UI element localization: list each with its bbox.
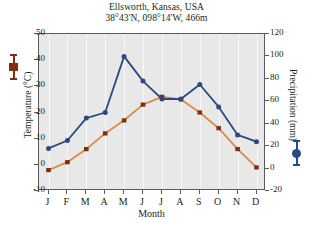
data-point: [122, 118, 127, 122]
x-tick-mark: [256, 190, 257, 194]
x-tick-label: N: [229, 196, 245, 207]
y2-tick-mark: [265, 55, 269, 56]
y-tick-label: 0: [15, 159, 45, 168]
y-tick-label: 30: [15, 80, 45, 89]
x-tick-mark: [161, 190, 162, 194]
data-point: [141, 79, 146, 84]
data-point: [141, 103, 146, 107]
data-point: [178, 97, 183, 102]
data-point: [160, 97, 165, 102]
series-layer: [39, 34, 264, 189]
data-point: [65, 138, 70, 143]
data-point: [198, 110, 203, 114]
data-point: [235, 147, 240, 151]
y2-tick-label: 80: [270, 73, 300, 82]
data-point: [216, 104, 221, 109]
y2-tick-label: 100: [270, 50, 300, 59]
data-point: [46, 146, 51, 151]
x-tick-mark: [66, 190, 67, 194]
x-tick-label: A: [172, 196, 188, 207]
x-tick-label: J: [134, 196, 150, 207]
data-point: [197, 82, 202, 87]
x-tick-label: O: [210, 196, 226, 207]
x-tick-label: S: [191, 196, 207, 207]
y2-tick-label: 120: [270, 28, 300, 37]
y-tick-label: 50: [15, 28, 45, 37]
plot-inner: [39, 34, 264, 189]
y2-tick-mark: [265, 78, 269, 79]
data-point: [84, 147, 89, 151]
x-tick-label: J: [153, 196, 169, 207]
x-tick-mark: [218, 190, 219, 194]
x-tick-mark: [180, 190, 181, 194]
y2-tick-mark: [265, 168, 269, 169]
chart-title-block: Ellsworth, Kansas, USA 38°43'N, 098°14'W…: [0, 2, 313, 24]
climate-chart-figure: Ellsworth, Kansas, USA 38°43'N, 098°14'W…: [0, 0, 313, 226]
data-point: [216, 126, 221, 130]
data-point: [103, 131, 108, 135]
x-tick-mark: [142, 190, 143, 194]
y2-tick-label: 60: [270, 95, 300, 104]
chart-subtitle: 38°43'N, 098°14'W, 466m: [0, 13, 313, 24]
y-tick-label: 40: [15, 54, 45, 63]
data-point: [103, 110, 108, 115]
y2-tick-mark: [265, 190, 269, 191]
y-tick-label: 20: [15, 107, 45, 116]
data-point: [254, 165, 259, 169]
y2-tick-label: 40: [270, 118, 300, 127]
series-line-temperature: [49, 97, 257, 170]
x-tick-label: F: [58, 196, 74, 207]
plot-area: [38, 33, 265, 190]
x-tick-label: A: [96, 196, 112, 207]
y2-tick-label: 0: [270, 163, 300, 172]
y-tick-label: 10: [15, 133, 45, 142]
data-point: [84, 116, 89, 121]
y-tick-label: -10: [15, 185, 45, 194]
x-tick-label: D: [248, 196, 264, 207]
y2-tick-mark: [265, 33, 269, 34]
x-axis-title: Month: [38, 208, 265, 219]
data-point: [122, 54, 127, 59]
x-tick-label: J: [40, 196, 56, 207]
y2-tick-mark: [265, 145, 269, 146]
y2-tick-mark: [265, 123, 269, 124]
x-tick-mark: [199, 190, 200, 194]
x-tick-label: M: [115, 196, 131, 207]
data-point: [235, 132, 240, 137]
y2-tick-mark: [265, 100, 269, 101]
chart-title: Ellsworth, Kansas, USA: [0, 2, 313, 13]
data-point: [46, 168, 51, 172]
y2-tick-label: -20: [270, 185, 300, 194]
data-point: [254, 139, 259, 144]
data-point: [65, 160, 70, 164]
x-tick-mark: [48, 190, 49, 194]
y2-tick-label: 20: [270, 140, 300, 149]
x-tick-mark: [237, 190, 238, 194]
x-tick-label: M: [77, 196, 93, 207]
x-tick-mark: [85, 190, 86, 194]
x-tick-mark: [123, 190, 124, 194]
x-tick-mark: [104, 190, 105, 194]
